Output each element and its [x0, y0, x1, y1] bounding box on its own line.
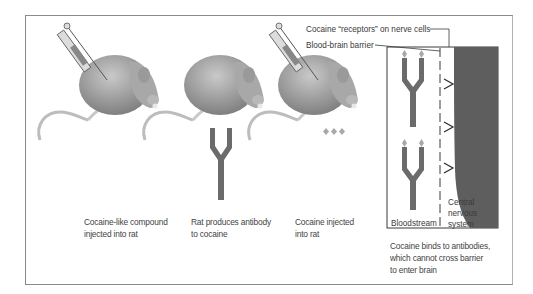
label-bloodstream: Bloodstream — [391, 217, 437, 228]
rat-icon-1 — [39, 55, 159, 140]
label-cns-3: system — [448, 218, 474, 229]
inset-diagram — [375, 29, 498, 228]
label-cns-2: nervous — [448, 207, 477, 218]
rat-icon-2 — [144, 55, 264, 140]
rat-icon-3 — [249, 55, 358, 140]
inset-caption: Cocaine binds to antibodies, which canno… — [390, 240, 490, 276]
panel-3-caption: Cocaine injected into rat — [295, 216, 354, 240]
label-receptors: Cocaine “receptors” on nerve cells — [306, 23, 430, 34]
panel-1-caption: Cocaine-like compound injected into rat — [84, 216, 168, 240]
antibody-icon — [210, 128, 232, 200]
label-barrier: Blood-brain barrier — [306, 39, 374, 50]
cocaine-molecules-icon — [323, 128, 345, 135]
label-cns-1: Central — [448, 196, 474, 207]
panel-2-caption: Rat produces antibody to cocaine — [191, 216, 271, 240]
